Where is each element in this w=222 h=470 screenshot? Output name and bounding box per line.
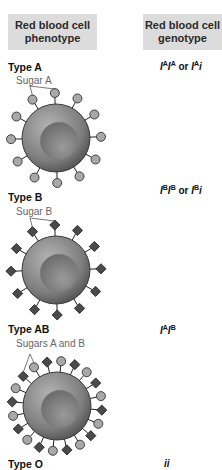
type-o-label: Type O	[8, 458, 43, 470]
type-b-genotype: IBIB or IBi	[160, 185, 202, 196]
type-ab-cell-illustration	[0, 0, 120, 470]
type-a-genotype: IAIA or IAi	[160, 61, 202, 72]
type-ab-genotype: IAIB	[160, 325, 176, 336]
type-o-genotype: ii	[164, 458, 170, 469]
genotype-header: Red blood cell genotype	[143, 14, 222, 50]
